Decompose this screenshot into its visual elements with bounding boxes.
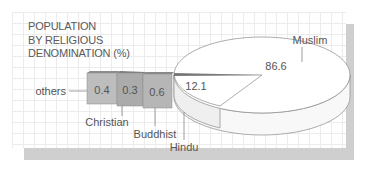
muslim-value: 86.6 [265,60,286,72]
buddhist-label: Buddhist [134,128,177,140]
buddhist-top [143,72,174,74]
others-value: 0.4 [94,84,109,96]
others-label: others [35,85,66,97]
hindu-value: 12.1 [185,80,206,92]
buddhist-value: 0.6 [149,86,164,98]
others-top [87,71,120,73]
hindu-label: Hindu [170,141,199,153]
christian-label: Christian [85,116,128,128]
muslim-label: Muslim [293,34,328,46]
christian-value: 0.3 [122,84,137,96]
pie-chart: 0.4 0.3 0.6 12.1 86.6 others Christian B… [0,0,372,178]
